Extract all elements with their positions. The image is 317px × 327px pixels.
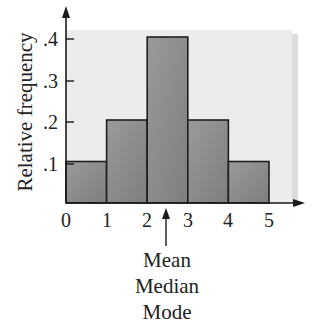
annotation-mean: Mean xyxy=(110,247,224,273)
histogram-bar xyxy=(228,162,269,204)
arrow-up-icon xyxy=(162,208,170,219)
x-tick-label: 2 xyxy=(142,209,152,231)
x-tick-label: 1 xyxy=(102,209,112,231)
panel-shadow xyxy=(292,34,298,204)
y-tick-label: .2 xyxy=(43,111,58,133)
annotation-mode: Mode xyxy=(110,299,224,325)
x-tick-label: 3 xyxy=(183,209,193,231)
y-axis-label: Relative frequency xyxy=(13,32,37,192)
x-tick-label: 5 xyxy=(264,209,274,231)
x-tick-label: 0 xyxy=(61,209,71,231)
histogram-bar xyxy=(147,37,188,203)
histogram-bar xyxy=(66,162,107,204)
y-tick-label: .4 xyxy=(43,28,58,50)
y-axis-arrow-icon xyxy=(62,6,70,18)
x-tick-label: 4 xyxy=(223,209,233,231)
x-axis-arrow-icon xyxy=(293,199,305,207)
y-tick-label: .1 xyxy=(43,153,58,175)
annotation-median: Median xyxy=(110,273,224,299)
histogram-bar xyxy=(107,120,148,203)
y-tick-label: .3 xyxy=(43,70,58,92)
histogram-bar xyxy=(188,120,229,203)
